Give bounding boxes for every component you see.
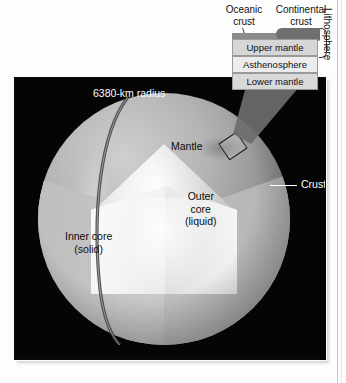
label-outer-core-line1: Outer: [185, 190, 217, 203]
earth-cutaway-figure: 6380-km radius Mantle Outer core (liquid…: [15, 78, 325, 359]
label-outer-core: Outer core (liquid): [185, 190, 217, 228]
label-inner-core-line1: Inner core: [65, 230, 112, 243]
label-earth-radius: 6380-km radius: [93, 87, 165, 100]
label-oceanic-crust: Oceanic crust: [216, 4, 272, 28]
inset-layer-upper-mantle: Upper mantle: [232, 39, 318, 56]
label-inner-core-line2: (solid): [65, 243, 112, 256]
label-oceanic-crust-line1: Oceanic: [216, 4, 272, 16]
label-crust: Crust: [301, 178, 325, 190]
crust-leader-line: [270, 185, 297, 186]
label-lithosphere: Lithosphere: [322, 8, 333, 60]
inset-layer-asthenosphere: Asthenosphere: [232, 56, 318, 73]
inset-layer-lower-mantle: Lower mantle: [232, 73, 318, 90]
label-outer-core-line3: (liquid): [185, 215, 217, 228]
label-mantle: Mantle: [171, 140, 203, 153]
lithosphere-inset-diagram: Upper mantle Asthenosphere Lower mantle: [232, 33, 318, 88]
label-outer-core-line2: core: [185, 203, 217, 216]
page-edge-rule: [337, 0, 338, 383]
label-inner-core: Inner core (solid): [65, 230, 112, 255]
page-edge-rule-outer: [341, 0, 342, 383]
label-oceanic-crust-line2: crust: [216, 16, 272, 28]
crust-callout: Crust: [270, 178, 325, 192]
